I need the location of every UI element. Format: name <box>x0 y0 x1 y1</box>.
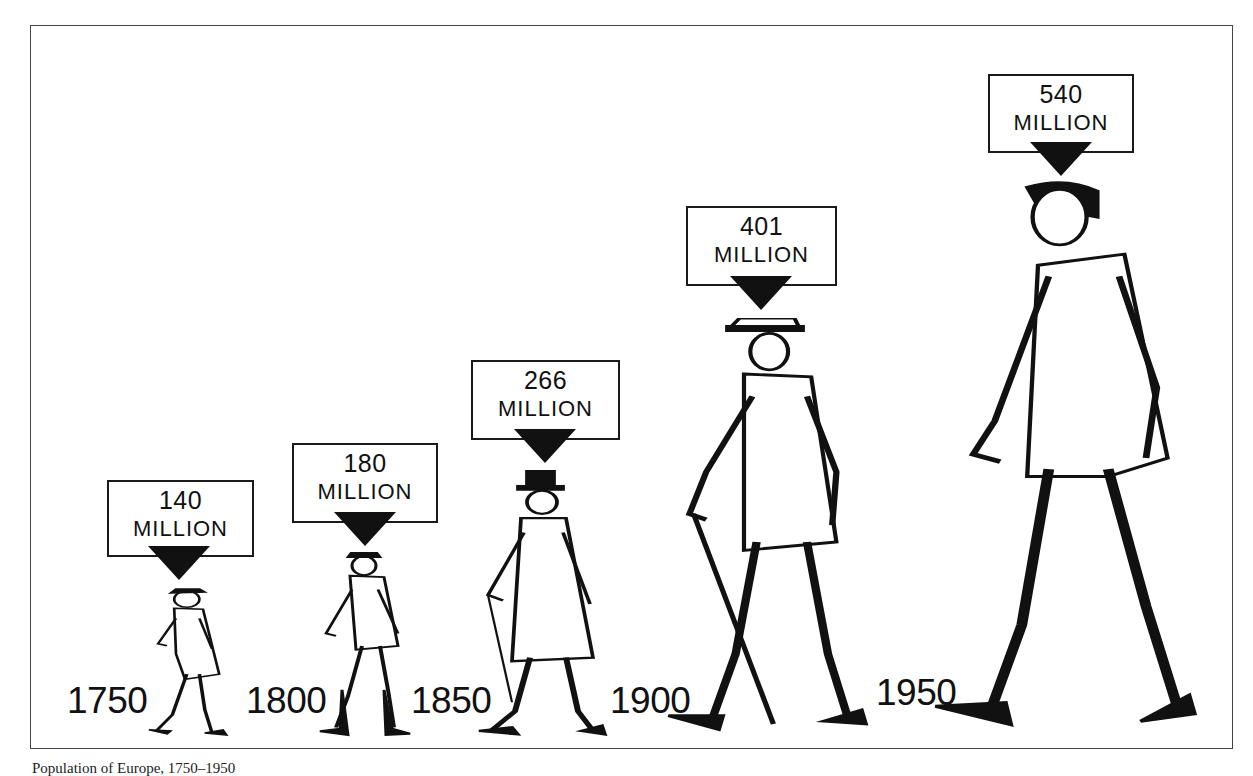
walking-man-1950-icon <box>930 180 1200 736</box>
value-unit: MILLION <box>688 244 835 266</box>
value-number: 140 <box>109 488 252 513</box>
walking-man-1800-icon <box>312 552 412 740</box>
walking-man-1850-icon <box>458 470 608 738</box>
year-label-1750: 1750 <box>67 680 147 722</box>
pointer-arrow-icon <box>1030 142 1092 176</box>
pointer-arrow-icon <box>514 429 576 463</box>
value-unit: MILLION <box>990 112 1132 134</box>
value-number: 180 <box>294 451 436 476</box>
figure-caption: Population of Europe, 1750–1950 <box>32 760 235 776</box>
value-number: 401 <box>688 214 835 239</box>
value-number: 540 <box>990 82 1132 107</box>
value-unit: MILLION <box>109 518 252 540</box>
walking-man-1900-icon <box>660 318 870 738</box>
value-unit: MILLION <box>294 481 436 503</box>
walking-man-1750-icon <box>140 588 230 740</box>
value-number: 266 <box>473 368 618 393</box>
pointer-arrow-icon <box>730 276 792 310</box>
value-label-1850: 266 MILLION <box>471 360 620 440</box>
value-label-1900: 401 MILLION <box>686 206 837 286</box>
value-label-1800: 180 MILLION <box>292 443 438 523</box>
value-unit: MILLION <box>473 398 618 420</box>
pointer-arrow-icon <box>334 512 396 546</box>
pointer-arrow-icon <box>148 546 210 580</box>
